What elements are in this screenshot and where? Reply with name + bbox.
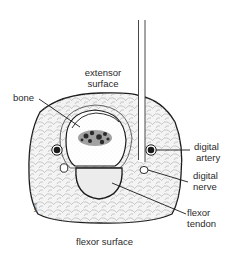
label-digital-nerve-line1: digital: [193, 170, 218, 181]
digital-nerve-left: [60, 164, 68, 172]
artist-signature: MMS: [33, 203, 38, 212]
needle: [139, 20, 146, 162]
label-bone: bone: [13, 92, 34, 103]
label-digital-artery-line1: digital: [194, 141, 220, 152]
digital-nerve-right: [140, 166, 148, 173]
label-flexor-surface: flexor surface: [76, 236, 133, 247]
label-extensor-surface: extensor surface: [83, 67, 123, 89]
label-flexor-tendon-line2: tendon: [187, 218, 216, 229]
label-digital-nerve: digital nerve: [193, 170, 218, 192]
label-extensor-line2: surface: [83, 78, 123, 89]
label-flexor-tendon: flexor tendon: [187, 207, 216, 229]
bone-marrow: [78, 130, 112, 146]
label-digital-nerve-line2: nerve: [193, 181, 218, 192]
bone: [66, 110, 126, 166]
digital-artery-left: [52, 145, 62, 155]
label-digital-artery: digital artery: [194, 141, 220, 163]
label-extensor-line1: extensor: [83, 67, 123, 78]
label-flexor-tendon-line1: flexor: [187, 207, 216, 218]
digital-artery-right: [146, 145, 156, 155]
label-digital-artery-line2: artery: [194, 152, 220, 163]
